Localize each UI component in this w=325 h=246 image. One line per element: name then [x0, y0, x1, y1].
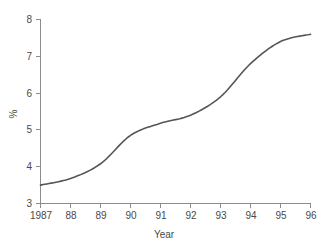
x-tick-label: 94 — [245, 210, 257, 221]
y-tick-label: 5 — [26, 124, 32, 135]
x-tick-label: 95 — [275, 210, 287, 221]
x-tick-label: 93 — [215, 210, 227, 221]
line-chart: 8 7 6 5 4 3 1987 88 89 90 91 92 — [0, 0, 325, 246]
x-tick-label: 89 — [95, 210, 107, 221]
y-tick-label: 3 — [26, 198, 32, 209]
chart-canvas: 8 7 6 5 4 3 1987 88 89 90 91 92 — [0, 0, 325, 246]
x-tick-label: 92 — [185, 210, 197, 221]
x-tick-label: 90 — [125, 210, 137, 221]
x-tick-label: 1987 — [30, 210, 53, 221]
y-tick-label: 8 — [26, 14, 32, 25]
x-tick-label: 91 — [155, 210, 167, 221]
x-axis-title: Year — [154, 229, 175, 240]
y-axis-title: % — [8, 109, 19, 118]
y-tick-label: 7 — [26, 51, 32, 62]
y-tick-label: 6 — [26, 88, 32, 99]
x-tick-label: 96 — [305, 210, 317, 221]
y-tick-label: 4 — [26, 161, 32, 172]
x-tick-label: 88 — [65, 210, 77, 221]
